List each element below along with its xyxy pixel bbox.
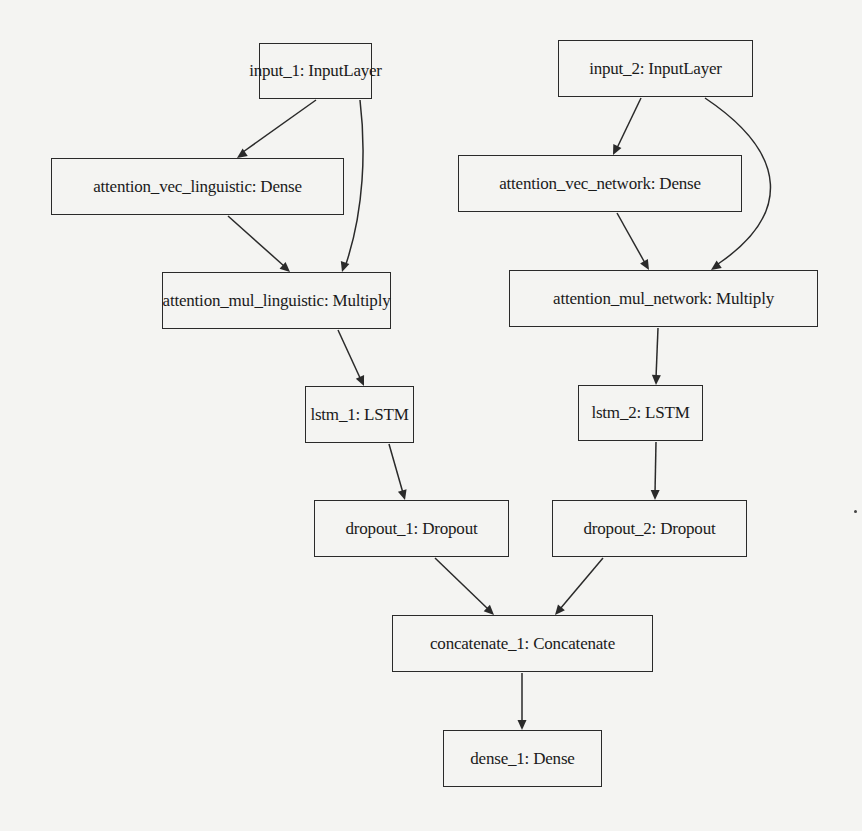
node-dropout-2: dropout_2: Dropout: [552, 500, 747, 557]
arrowhead-icon: [652, 375, 661, 385]
arrowhead-icon: [518, 720, 527, 730]
node-lstm-2: lstm_2: LSTM: [578, 385, 703, 441]
node-label: attention_vec_network: Dense: [499, 174, 701, 194]
edge-attention-vec-network-to-attention-mul-network: [617, 213, 653, 272]
node-label: attention_mul_linguistic: Multiply: [163, 291, 391, 311]
node-input-2: input_2: InputLayer: [558, 40, 753, 97]
node-lstm-1: lstm_1: LSTM: [305, 386, 414, 443]
arrowhead-icon: [651, 490, 660, 500]
edge-lstm-2-to-dropout-2: [651, 442, 660, 500]
stray-mark: [854, 510, 857, 513]
node-label: concatenate_1: Concatenate: [430, 634, 615, 654]
node-label: lstm_2: LSTM: [591, 403, 689, 423]
node-input-1: input_1: InputLayer: [259, 43, 372, 99]
node-label: input_1: InputLayer: [249, 61, 382, 81]
edge-concatenate-1-to-dense-1: [518, 673, 527, 730]
edge-dropout-1-to-concatenate-1: [435, 558, 497, 618]
edge-input-2-to-attention-vec-network: [609, 98, 641, 157]
edge-attention-mul-linguistic-to-lstm-1: [338, 330, 368, 388]
edge-attention-vec-linguistic-to-attention-mul-linguistic: [228, 216, 293, 275]
model-graph-canvas: input_1: InputLayerinput_2: InputLayerat…: [0, 0, 862, 831]
node-label: attention_vec_linguistic: Dense: [93, 177, 302, 197]
edges-layer: [0, 0, 862, 831]
edge-attention-mul-network-to-lstm-2: [652, 328, 661, 385]
node-attention-mul-linguistic: attention_mul_linguistic: Multiply: [162, 272, 391, 329]
node-label: input_2: InputLayer: [589, 59, 722, 79]
node-label: dropout_1: Dropout: [346, 519, 478, 539]
node-attention-vec-network: attention_vec_network: Dense: [458, 155, 742, 212]
node-concatenate-1: concatenate_1: Concatenate: [392, 615, 653, 672]
edge-input-1-to-attention-vec-linguistic: [234, 100, 316, 162]
node-label: lstm_1: LSTM: [310, 405, 408, 425]
node-label: dropout_2: Dropout: [584, 519, 716, 539]
node-attention-mul-network: attention_mul_network: Multiply: [509, 270, 818, 327]
node-label: attention_mul_network: Multiply: [553, 289, 774, 309]
node-dense-1: dense_1: Dense: [443, 730, 602, 787]
node-attention-vec-linguistic: attention_vec_linguistic: Dense: [51, 158, 344, 215]
edge-lstm-1-to-dropout-1: [389, 444, 409, 501]
edge-dropout-2-to-concatenate-1: [552, 558, 603, 618]
node-label: dense_1: Dense: [470, 749, 574, 769]
node-dropout-1: dropout_1: Dropout: [314, 500, 509, 557]
